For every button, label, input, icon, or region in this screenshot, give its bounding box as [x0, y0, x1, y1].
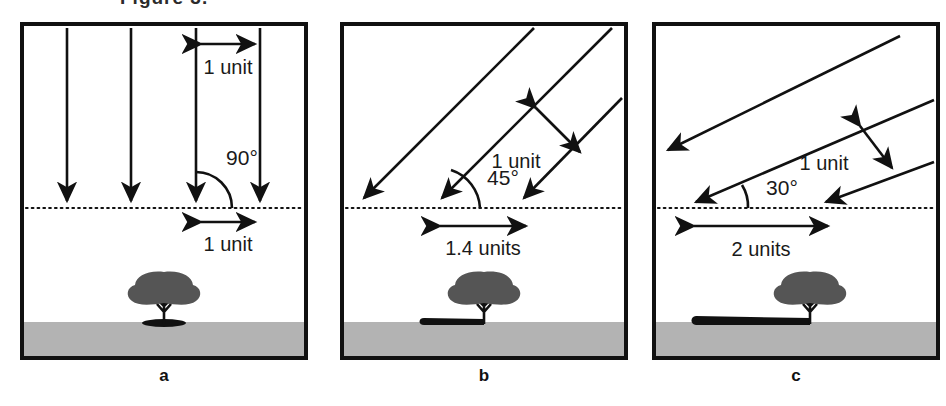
panel-a-ground-span-label: 1 unit — [204, 233, 253, 255]
panel-b-ground-span-label: 1.4 units — [445, 237, 521, 259]
panel-a-label: a — [20, 366, 308, 386]
panel-c: 1 unit 30° 2 units — [652, 22, 940, 360]
panel-c-angle-label: 30° — [766, 176, 798, 199]
panel-c-ground-span-label: 2 units — [732, 238, 791, 260]
panel-c-label: c — [652, 366, 940, 386]
panel-b: 1 unit 45° 1.4 units — [340, 22, 628, 360]
panel-b-angle-label: 45° — [487, 166, 519, 189]
panel-b-tree-shadow — [420, 318, 485, 325]
panel-a-beam-width-label: 1 unit — [204, 56, 253, 78]
cropped-caption-text: Figure 3. — [120, 0, 208, 9]
panel-b-ground-band — [344, 322, 624, 356]
figure-canvas: Figure 3. — [0, 0, 946, 406]
panel-c-ground-band — [656, 322, 936, 356]
panel-a-angle-label: 90° — [226, 146, 258, 169]
panel-c-beam-width-label: 1 unit — [800, 152, 849, 174]
panel-b-label: b — [340, 366, 628, 386]
panel-a: 1 unit 90° 1 unit — [20, 22, 308, 360]
panel-a-ground-band — [24, 322, 304, 356]
cropped-caption-top: Figure 3. — [0, 0, 946, 14]
